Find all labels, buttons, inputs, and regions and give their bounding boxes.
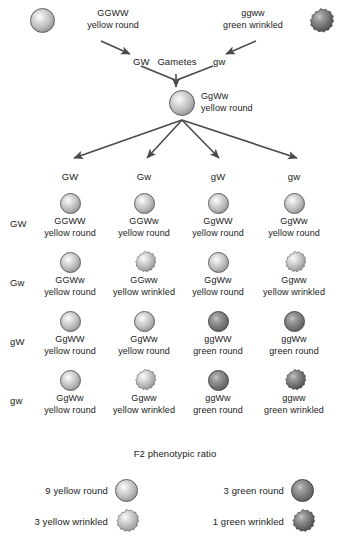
- punnett-cell-r4-c2-label-phenotype: yellow wrinkled: [113, 405, 175, 417]
- legend-entry-1-label: 9 yellow round: [45, 485, 108, 496]
- punnett-cell-r2-c1-label: GGWwyellow round: [44, 275, 96, 298]
- punnett-cell-r3-c2-label-genotype: GgWw: [118, 334, 170, 346]
- punnett-cell-r2-c4-label-phenotype: yellow wrinkled: [263, 287, 325, 299]
- punnett-column-header-4: gw: [288, 171, 300, 182]
- dihybrid-cross-figure: GGWW yellow round ggww: [0, 0, 350, 553]
- f1-genotype: GgWw: [201, 91, 253, 103]
- punnett-cell-r4-c2-label-genotype: Ggww: [113, 393, 175, 405]
- punnett-cell-r4-c3-label-genotype: ggWw: [193, 393, 243, 405]
- parent-left-sphere: [30, 8, 55, 33]
- punnett-cell-r2-c2-label-phenotype: yellow wrinkled: [113, 287, 175, 299]
- punnett-cell-r4-c4-label-genotype: ggww: [264, 393, 324, 405]
- parent-left-genotype: GGWW: [87, 8, 139, 20]
- parent-right-sphere: [306, 7, 335, 36]
- arrow-f1-to-gamete-2: [147, 120, 182, 158]
- punnett-row-header-4: gw: [10, 395, 22, 406]
- punnett-cell-r4-c3-label-phenotype: green round: [193, 405, 243, 417]
- legend-entry-1-sphere: [115, 479, 138, 502]
- punnett-cell-r2-c1-label-genotype: GGWw: [44, 275, 96, 287]
- punnett-cell-r1-c2-sphere: [134, 193, 155, 214]
- arrow-gamete-right-to-f1: [177, 66, 213, 80]
- punnett-cell-r3-c3-sphere: [208, 311, 229, 332]
- punnett-cell-r4-c4-label-phenotype: green wrinkled: [264, 405, 324, 417]
- arrow-f1-to-gamete-4: [182, 120, 297, 158]
- punnett-cell-r4-c4-sphere: [282, 368, 307, 393]
- arrow-p1-to-gametes: [101, 41, 130, 54]
- punnett-cell-r2-c2-label-genotype: GGww: [113, 275, 175, 287]
- punnett-cell-r1-c4-label: GgWwyellow round: [268, 216, 320, 239]
- punnett-cell-r1-c1-sphere: [60, 193, 81, 214]
- punnett-cell-r1-c1-label-phenotype: yellow round: [44, 228, 96, 240]
- arrow-f1-to-gamete-3: [182, 120, 219, 158]
- parent-right-genotype-label: ggww green wrinkled: [223, 8, 283, 31]
- punnett-cell-r3-c2-sphere: [134, 311, 155, 332]
- punnett-cell-r1-c3-label-genotype: GgWW: [192, 216, 244, 228]
- punnett-cell-r1-c2-label-phenotype: yellow round: [118, 228, 170, 240]
- punnett-cell-r3-c4-label: ggWwgreen round: [269, 334, 319, 357]
- punnett-cell-r3-c1-label-phenotype: yellow round: [44, 346, 96, 358]
- punnett-cell-r4-c4-label: ggwwgreen wrinkled: [264, 393, 324, 416]
- legend-entry-4-label: 1 green wrinkled: [213, 516, 284, 527]
- parent-right-genotype: ggww: [223, 8, 283, 20]
- punnett-cell-r2-c3-label: GgWwyellow round: [192, 275, 244, 298]
- punnett-cell-r2-c4-label: Ggwwyellow wrinkled: [263, 275, 325, 298]
- punnett-cell-r2-c1-sphere: [60, 252, 81, 273]
- punnett-cell-r4-c1-label-genotype: GgWw: [44, 393, 96, 405]
- gametes-center-label: Gametes: [157, 56, 196, 67]
- punnett-cell-r3-c1-label: GgWWyellow round: [44, 334, 96, 357]
- gamete-right-label: gw: [213, 56, 225, 67]
- punnett-cell-r2-c3-label-genotype: GgWw: [192, 275, 244, 287]
- punnett-cell-r2-c4-label-genotype: Ggww: [263, 275, 325, 287]
- legend-entry-3-label: 3 yellow wrinkled: [34, 516, 108, 527]
- arrow-f1-to-gamete-1: [74, 120, 182, 158]
- punnett-cell-r4-c2-sphere: [132, 368, 157, 393]
- parent-left-phenotype: yellow round: [87, 20, 139, 32]
- arrow-p2-to-gametes: [226, 41, 256, 54]
- punnett-cell-r2-c4-sphere: [282, 250, 307, 275]
- punnett-cell-r1-c4-label-genotype: GgWw: [268, 216, 320, 228]
- punnett-cell-r3-c4-label-genotype: ggWw: [269, 334, 319, 346]
- legend-entry-4-sphere: [289, 508, 316, 535]
- punnett-cell-r1-c1-label: GGWWyellow round: [44, 216, 96, 239]
- punnett-cell-r2-c3-sphere: [208, 252, 229, 273]
- punnett-cell-r2-c2-sphere: [132, 250, 157, 275]
- punnett-cell-r4-c3-sphere: [208, 370, 229, 391]
- punnett-cell-r3-c4-label-phenotype: green round: [269, 346, 319, 358]
- punnett-cell-r1-c1-label-genotype: GGWW: [44, 216, 96, 228]
- punnett-cell-r2-c3-label-phenotype: yellow round: [192, 287, 244, 299]
- punnett-column-header-1: GW: [62, 171, 79, 182]
- punnett-cell-r3-c2-label: GgWwyellow round: [118, 334, 170, 357]
- punnett-cell-r4-c1-label: GgWwyellow round: [44, 393, 96, 416]
- punnett-cell-r2-c1-label-phenotype: yellow round: [44, 287, 96, 299]
- punnett-cell-r3-c3-label: ggWWgreen round: [193, 334, 243, 357]
- punnett-cell-r4-c3-label: ggWwgreen round: [193, 393, 243, 416]
- punnett-cell-r2-c2-label: GGwwyellow wrinkled: [113, 275, 175, 298]
- punnett-cell-r1-c3-label-phenotype: yellow round: [192, 228, 244, 240]
- punnett-cell-r1-c4-sphere: [284, 193, 305, 214]
- f1-sphere: [169, 90, 195, 116]
- f2-ratio-title: F2 phenotypic ratio: [134, 448, 217, 459]
- punnett-cell-r1-c4-label-phenotype: yellow round: [268, 228, 320, 240]
- punnett-row-header-2: Gw: [10, 277, 24, 288]
- punnett-cell-r3-c1-label-genotype: GgWW: [44, 334, 96, 346]
- legend-entry-3-sphere: [113, 508, 140, 535]
- gamete-left-label: GW: [133, 56, 150, 67]
- punnett-cell-r3-c1-sphere: [60, 311, 81, 332]
- punnett-cell-r1-c2-label-genotype: GGWw: [118, 216, 170, 228]
- punnett-cell-r3-c4-sphere: [284, 311, 305, 332]
- legend-entry-2-sphere: [291, 479, 314, 502]
- punnett-cell-r4-c2-label: Ggwwyellow wrinkled: [113, 393, 175, 416]
- punnett-row-header-1: GW: [10, 218, 27, 229]
- parent-right-phenotype: green wrinkled: [223, 20, 283, 32]
- punnett-cell-r1-c3-label: GgWWyellow round: [192, 216, 244, 239]
- punnett-cell-r4-c1-label-phenotype: yellow round: [44, 405, 96, 417]
- punnett-column-header-2: Gw: [137, 171, 151, 182]
- punnett-cell-r1-c2-label: GGWwyellow round: [118, 216, 170, 239]
- f1-genotype-label: GgWw yellow round: [201, 91, 253, 114]
- punnett-cell-r1-c3-sphere: [208, 193, 229, 214]
- f1-phenotype: yellow round: [201, 103, 253, 115]
- punnett-cell-r3-c3-label-genotype: ggWW: [193, 334, 243, 346]
- legend-entry-2-label: 3 green round: [224, 485, 284, 496]
- arrow-gamete-left-to-f1: [141, 66, 175, 80]
- punnett-cell-r4-c1-sphere: [60, 370, 81, 391]
